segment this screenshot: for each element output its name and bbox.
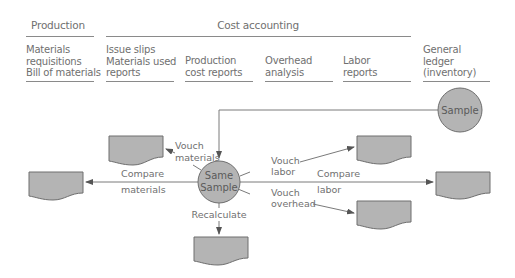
document-icon-production-cost-report xyxy=(194,237,248,265)
vouch-labor-arrow xyxy=(300,147,354,162)
document-icon-labor-report xyxy=(357,136,411,164)
compare-materials-label-line2: materials xyxy=(121,184,166,195)
same-sample-node: Same Sample xyxy=(198,161,240,203)
vouch-materials-label-line1: Vouch xyxy=(175,140,204,151)
same-sample-label-line2: Sample xyxy=(200,182,238,193)
compare-materials-label-line1: Compare xyxy=(121,168,164,179)
recalculate-label: Recalculate xyxy=(192,209,247,220)
sample-label: Sample xyxy=(441,105,479,116)
audit-sampling-diagram: Sample Same Sample Vouch materials Compa… xyxy=(0,0,515,278)
vouch-overhead-label-line2: overhead xyxy=(271,198,316,209)
vouch-labor-label-line2: labor xyxy=(271,166,295,177)
vouch-materials-leader xyxy=(193,165,201,170)
document-icon-materials-requisitions xyxy=(29,172,83,200)
document-icon-general-ledger xyxy=(436,172,490,199)
sample-node: Sample xyxy=(438,88,482,132)
compare-labor-label-line2: labor xyxy=(317,184,341,195)
vouch-overhead-leader xyxy=(238,189,250,194)
same-sample-label-line1: Same xyxy=(205,170,233,181)
vouch-materials-arrow xyxy=(166,149,175,153)
vouch-labor-label-line1: Vouch xyxy=(271,155,300,166)
document-icon-overhead-analysis xyxy=(357,201,411,229)
vouch-overhead-label-line1: Vouch xyxy=(271,187,300,198)
vouch-labor-leader xyxy=(240,172,250,176)
compare-labor-label-line1: Compare xyxy=(317,168,360,179)
vouch-materials-label-line2: materials xyxy=(175,152,220,163)
vouch-overhead-arrow xyxy=(313,204,354,213)
document-icon-materials-used xyxy=(109,136,163,165)
